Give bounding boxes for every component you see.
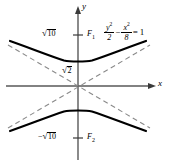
focus-label-f2: F2 (87, 133, 95, 143)
equation-term1: y2 2 (104, 22, 114, 42)
focus-f2-subscript: 2 (92, 137, 95, 143)
radicand-upper: 10 (47, 29, 56, 39)
focus-label-f1: F1 (87, 30, 95, 40)
radical-sqrt2: √2 (62, 66, 72, 76)
focus-f1-subscript: 1 (92, 34, 95, 40)
equation-term2-numerator: x2 (121, 22, 131, 32)
equation-equals-sign: = (132, 28, 139, 37)
equation-term1-denominator: 2 (104, 32, 114, 42)
y-axis-arrowhead (75, 6, 81, 14)
tick-label-upper-focus: √10 (42, 29, 56, 39)
radical-sqrt10-lower: √10 (43, 132, 57, 142)
tick-label-lower-focus: −√10 (38, 132, 56, 142)
x-axis-label: x (158, 79, 162, 88)
tick-label-vertex: √2 (62, 66, 72, 76)
y-axis-label: y (82, 2, 86, 11)
equation-term1-exponent: 2 (110, 21, 113, 27)
equation-label: y2 2 − x2 8 =1 (104, 22, 145, 42)
equation-term2: x2 8 (121, 22, 131, 42)
radicand-vertex: 2 (67, 66, 72, 76)
radical-sqrt10-upper: √10 (42, 29, 56, 39)
equation-term1-numerator: y2 (104, 22, 114, 32)
equation-term2-exponent: 2 (127, 21, 130, 27)
equation-term2-denominator: 8 (121, 32, 131, 42)
equation-rhs: 1 (139, 28, 146, 37)
radicand-lower: 10 (47, 132, 56, 142)
x-axis-arrowhead (148, 83, 156, 89)
equation-operator: − (114, 28, 121, 37)
hyperbola-figure: y x √10 F1 √2 −√10 F2 y2 2 − x2 8 =1 (0, 0, 169, 163)
